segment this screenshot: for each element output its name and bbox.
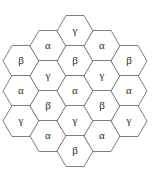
hex-label: γ — [18, 114, 24, 126]
hex-label: γ — [99, 69, 105, 81]
hex-label: γ — [72, 24, 78, 36]
hex-label: α — [99, 39, 105, 51]
hex-label: β — [72, 144, 78, 156]
hex-label: β — [99, 99, 105, 111]
hex-label: γ — [126, 114, 132, 126]
hex-label: α — [45, 39, 51, 51]
hex-label: β — [45, 99, 51, 111]
hex-label: α — [99, 129, 105, 141]
hex-label: α — [126, 84, 132, 96]
hex-label: γ — [72, 114, 78, 126]
hexagon-tiling-figure: βαγαγβαγβαγβαγβαβαγ — [0, 0, 164, 181]
hex-label: α — [72, 84, 78, 96]
hex-label: β — [18, 54, 24, 66]
hexagon-grid-svg: βαγαγβαγβαγβαγβαβαγ — [0, 0, 164, 181]
hex-label: α — [18, 84, 24, 96]
hex-label: α — [45, 129, 51, 141]
hex-label: β — [126, 54, 132, 66]
hex-label: γ — [45, 69, 51, 81]
hex-label: β — [72, 54, 78, 66]
